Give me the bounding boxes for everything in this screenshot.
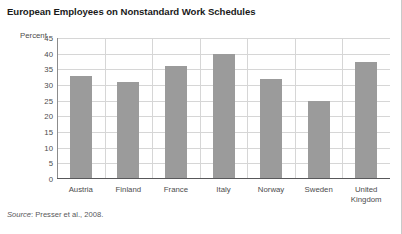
bar [213, 54, 235, 179]
chart-figure: European Employees on Nonstandard Work S… [0, 0, 402, 234]
x-axis-tick-label: Norway [258, 185, 284, 195]
x-axis-line [57, 178, 390, 180]
plot-area: 051015202530354045 AustriaFinlandFranceI… [57, 38, 390, 179]
bar [70, 76, 92, 179]
y-axis-tick-label: 25 [33, 96, 53, 105]
source-note: Source: Presser et al., 2008. [7, 210, 103, 219]
x-axis-tick-label: Italy [216, 185, 230, 195]
x-axis-tick-label: Finland [116, 185, 142, 195]
y-axis-tick-label: 20 [33, 112, 53, 121]
x-axis-tick-label: United Kingdom [351, 185, 382, 204]
x-axis-tick-label: Austria [69, 185, 93, 195]
source-label: Source [7, 210, 31, 219]
gridline-vertical [295, 38, 296, 179]
gridline-vertical [105, 38, 106, 179]
source-text: Presser et al., 2008. [35, 210, 103, 219]
gridline-vertical [152, 38, 153, 179]
y-axis-tick-label: 30 [33, 81, 53, 90]
y-axis-tick-label: 45 [33, 34, 53, 43]
bar [260, 79, 282, 179]
y-axis-line [57, 38, 58, 179]
bar [117, 82, 139, 179]
gridline-vertical [247, 38, 248, 179]
bar [165, 66, 187, 179]
y-axis-tick-label: 40 [33, 49, 53, 58]
chart-title: European Employees on Nonstandard Work S… [7, 6, 256, 17]
bar [355, 62, 377, 180]
y-axis-tick-label: 10 [33, 143, 53, 152]
y-axis-tick-label: 35 [33, 65, 53, 74]
gridline-vertical [342, 38, 343, 179]
y-axis-tick-label: 15 [33, 128, 53, 137]
gridline-vertical [200, 38, 201, 179]
bar [308, 101, 330, 179]
y-axis-tick-label: 0 [33, 175, 53, 184]
gridline-horizontal [57, 38, 390, 39]
x-axis-tick-label: Sweden [305, 185, 333, 195]
y-axis-tick-label: 5 [33, 159, 53, 168]
x-axis-tick-label: France [164, 185, 188, 195]
